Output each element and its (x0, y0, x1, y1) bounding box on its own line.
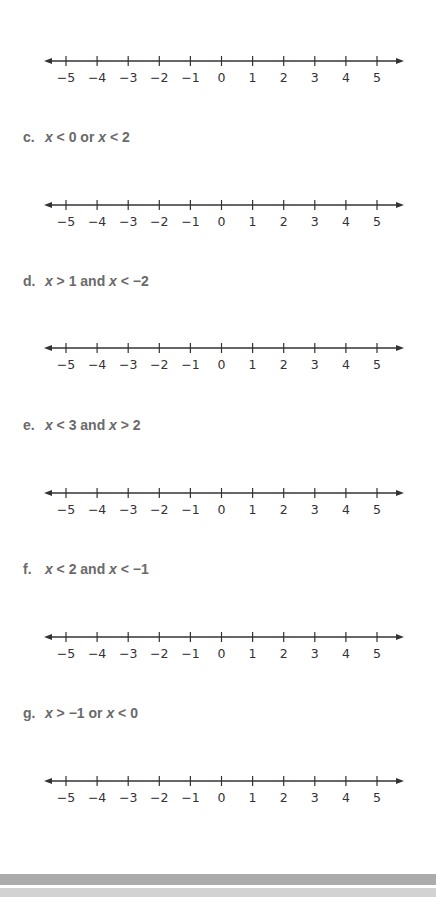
tick-label: 3 (300, 214, 330, 229)
arrow-left-icon (44, 778, 52, 784)
problem-g-label: g. x > −1 or x < 0 (23, 705, 138, 721)
tick-label: 3 (300, 502, 330, 517)
tick-label: 4 (331, 357, 361, 372)
tick-label: −2 (144, 357, 174, 372)
problem-e-label: e. x < 3 and x > 2 (23, 417, 141, 433)
arrow-right-icon (396, 490, 404, 496)
tick-label: 1 (238, 70, 268, 85)
arrow-right-icon (396, 778, 404, 784)
tick-label: −4 (82, 502, 112, 517)
arrow-right-icon (396, 202, 404, 208)
tick-label: 1 (238, 790, 268, 805)
tick-label: 1 (238, 502, 268, 517)
tick-label: 0 (207, 646, 237, 661)
problem-expression: x < 2 and x < −1 (45, 561, 149, 577)
number-line-e[interactable]: −5−4−3−2−1012345 (0, 473, 436, 513)
tick-label: −4 (82, 70, 112, 85)
tick-label: −5 (51, 646, 81, 661)
problem-letter: f. (23, 561, 41, 577)
tick-label: −4 (82, 646, 112, 661)
tick-label: 2 (269, 357, 299, 372)
arrow-left-icon (44, 345, 52, 351)
tick-label: 0 (207, 790, 237, 805)
tick-label: 0 (207, 357, 237, 372)
tick-label: 5 (362, 502, 392, 517)
arrow-right-icon (396, 634, 404, 640)
problem-expression: x > 1 and x < −2 (45, 273, 149, 289)
tick-label: −1 (175, 70, 205, 85)
tick-label: −1 (175, 214, 205, 229)
tick-label: 2 (269, 70, 299, 85)
problem-c-label: c. x < 0 or x < 2 (23, 129, 130, 145)
number-line-g[interactable]: −5−4−3−2−1012345 (0, 761, 436, 801)
tick-label: 4 (331, 646, 361, 661)
tick-label: 5 (362, 646, 392, 661)
tick-label: 2 (269, 646, 299, 661)
tick-label: 4 (331, 790, 361, 805)
tick-label: −5 (51, 502, 81, 517)
problem-expression: x > −1 or x < 0 (45, 705, 138, 721)
problem-letter: g. (23, 705, 41, 721)
arrow-left-icon (44, 634, 52, 640)
arrow-left-icon (44, 490, 52, 496)
tick-label: −4 (82, 214, 112, 229)
tick-label: −4 (82, 790, 112, 805)
tick-label: −3 (113, 357, 143, 372)
tick-label: 3 (300, 646, 330, 661)
tick-label: 3 (300, 357, 330, 372)
tick-label: −4 (82, 357, 112, 372)
tick-label: 2 (269, 502, 299, 517)
tick-label: −5 (51, 214, 81, 229)
number-line-b: −5−4−3−2−1012345 (0, 41, 436, 81)
tick-label: −2 (144, 214, 174, 229)
footer-bar-secondary (0, 888, 436, 897)
tick-label: 1 (238, 357, 268, 372)
tick-label: −1 (175, 502, 205, 517)
tick-label: −1 (175, 357, 205, 372)
problem-letter: e. (23, 417, 41, 433)
tick-label: −3 (113, 790, 143, 805)
tick-label: −1 (175, 646, 205, 661)
tick-label: −3 (113, 214, 143, 229)
tick-label: 5 (362, 214, 392, 229)
tick-label: −3 (113, 502, 143, 517)
tick-label: 3 (300, 70, 330, 85)
tick-label: 4 (331, 70, 361, 85)
problem-d-label: d. x > 1 and x < −2 (23, 273, 149, 289)
tick-label: −5 (51, 357, 81, 372)
tick-label: −2 (144, 646, 174, 661)
tick-label: 5 (362, 70, 392, 85)
footer-bar (0, 874, 436, 885)
arrow-left-icon (44, 202, 52, 208)
tick-label: −5 (51, 790, 81, 805)
arrow-right-icon (396, 58, 404, 64)
tick-label: 5 (362, 790, 392, 805)
tick-label: 0 (207, 502, 237, 517)
number-line-d[interactable]: −5−4−3−2−1012345 (0, 328, 436, 368)
tick-label: −2 (144, 790, 174, 805)
tick-label: 1 (238, 214, 268, 229)
tick-label: 2 (269, 214, 299, 229)
tick-label: −2 (144, 502, 174, 517)
problem-f-label: f. x < 2 and x < −1 (23, 561, 149, 577)
tick-label: −2 (144, 70, 174, 85)
tick-label: 1 (238, 646, 268, 661)
arrow-left-icon (44, 58, 52, 64)
number-line-c[interactable]: −5−4−3−2−1012345 (0, 185, 436, 225)
arrow-right-icon (396, 345, 404, 351)
tick-label: −3 (113, 70, 143, 85)
tick-label: 0 (207, 70, 237, 85)
tick-label: −5 (51, 70, 81, 85)
problem-letter: d. (23, 273, 41, 289)
problem-expression: x < 0 or x < 2 (45, 129, 130, 145)
problem-letter: c. (23, 129, 41, 145)
tick-label: −3 (113, 646, 143, 661)
tick-label: −1 (175, 790, 205, 805)
tick-label: 3 (300, 790, 330, 805)
problem-expression: x < 3 and x > 2 (45, 417, 141, 433)
tick-label: 2 (269, 790, 299, 805)
tick-label: 5 (362, 357, 392, 372)
tick-label: 0 (207, 214, 237, 229)
tick-label: 4 (331, 214, 361, 229)
number-line-f[interactable]: −5−4−3−2−1012345 (0, 617, 436, 657)
